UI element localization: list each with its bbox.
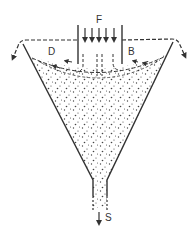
label-left-overflow: D (48, 46, 55, 57)
label-right-overflow: B (128, 46, 135, 57)
feed-arrows-icon (85, 28, 114, 40)
label-feed: F (96, 14, 102, 25)
label-underflow: S (105, 212, 112, 223)
slurry-fill (30, 54, 168, 208)
overflow-path-left (13, 40, 77, 58)
settling-cone-diagram: F D B S (0, 0, 194, 234)
